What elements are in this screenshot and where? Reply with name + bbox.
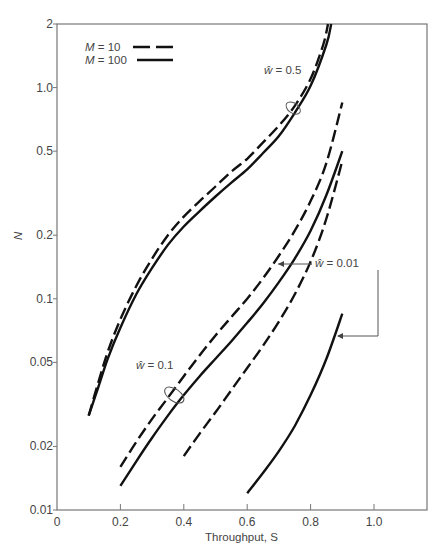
annotation-label: ŵ = 0.5 (264, 64, 301, 76)
annotation-label: ŵ = 0.1 (136, 359, 173, 371)
x-tick-label: 0.8 (302, 515, 319, 529)
data-series (89, 24, 343, 493)
annotations: ŵ = 0.5ŵ = 0.1ŵ = 0.01 (136, 64, 378, 371)
legend-label: M = 100 (85, 54, 127, 66)
plot-axes (57, 24, 427, 510)
y-tick-label: 0.2 (36, 228, 53, 242)
chart: 00.20.40.60.81.00.010.020.050.10.20.51.0… (0, 0, 443, 554)
y-tick-label: 0.5 (36, 144, 53, 158)
x-tick-label: 0.2 (112, 515, 129, 529)
curve-w-0-5-m-100 (89, 24, 332, 416)
x-axis-label: Throughput, S (205, 531, 278, 543)
arrow-head-icon (337, 333, 343, 339)
arrow-head-icon (278, 261, 284, 267)
y-axis-label: N (12, 231, 24, 240)
curve-w-0-5-m-10 (89, 24, 328, 416)
annotation-label: ŵ = 0.01 (315, 257, 359, 269)
curve-w-0-1-m-10 (120, 103, 342, 467)
legend: M = 10M = 100 (85, 41, 173, 66)
plot-frame (57, 24, 427, 510)
x-tick-label: 0.4 (175, 515, 192, 529)
legend-label: M = 10 (85, 41, 121, 53)
x-tick-label: 0.6 (239, 515, 256, 529)
axis-ticks: 00.20.40.60.81.00.010.020.050.10.20.51.0… (30, 17, 383, 529)
y-tick-label: 0.01 (30, 503, 54, 517)
y-tick-label: 1.0 (36, 81, 53, 95)
curve-w-0-01-m-100 (247, 314, 342, 494)
curve-w-0-1-m-100 (120, 151, 342, 486)
x-tick-label: 1.0 (366, 515, 383, 529)
x-tick-label: 0 (54, 515, 61, 529)
y-tick-label: 2 (46, 17, 53, 31)
arrow-line-bottom (338, 270, 378, 336)
y-tick-label: 0.02 (30, 439, 54, 453)
y-tick-label: 0.1 (36, 292, 53, 306)
y-tick-label: 0.05 (30, 355, 54, 369)
